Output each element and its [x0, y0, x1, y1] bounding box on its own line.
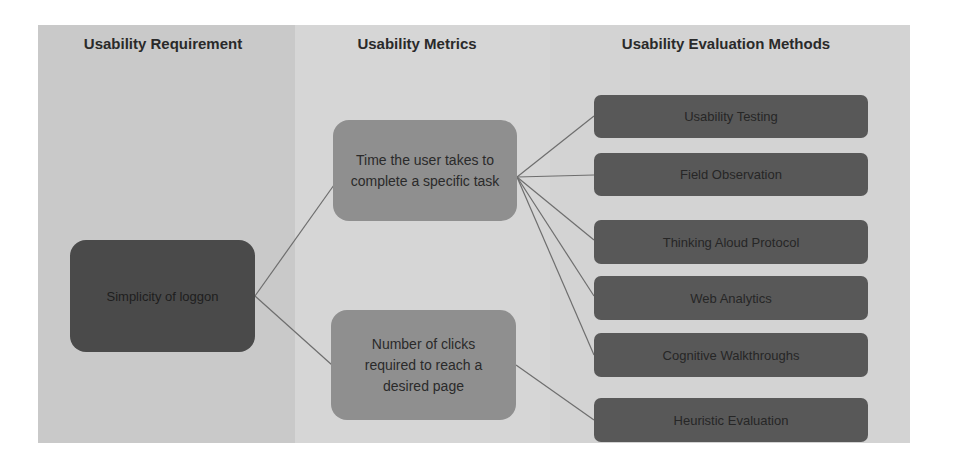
node-method-web-analytics: Web Analytics	[594, 276, 868, 320]
column-usability-requirement	[38, 25, 295, 443]
node-method-label: Field Observation	[680, 167, 782, 182]
node-metric-clicks-to-page: Number of clicks required to reach a des…	[331, 310, 516, 420]
node-method-thinking-aloud-protocol: Thinking Aloud Protocol	[594, 220, 868, 264]
node-metric-time-on-task: Time the user takes to complete a specif…	[333, 120, 517, 221]
node-method-label: Web Analytics	[690, 291, 771, 306]
node-method-field-observation: Field Observation	[594, 153, 868, 196]
node-method-usability-testing: Usability Testing	[594, 95, 868, 138]
header-usability-evaluation-methods: Usability Evaluation Methods	[622, 35, 830, 52]
node-method-label: Usability Testing	[684, 109, 778, 124]
node-method-heuristic-evaluation: Heuristic Evaluation	[594, 398, 868, 442]
node-method-cognitive-walkthroughs: Cognitive Walkthroughs	[594, 333, 868, 377]
node-method-label: Thinking Aloud Protocol	[663, 235, 800, 250]
node-metric-label: Time the user takes to complete a specif…	[347, 150, 503, 192]
header-usability-metrics: Usability Metrics	[357, 35, 476, 52]
node-metric-label: Number of clicks required to reach a des…	[353, 334, 494, 397]
node-requirement-label: Simplicity of loggon	[107, 289, 219, 304]
header-usability-requirement: Usability Requirement	[84, 35, 242, 52]
node-requirement: Simplicity of loggon	[70, 240, 255, 352]
node-method-label: Cognitive Walkthroughs	[663, 348, 800, 363]
node-method-label: Heuristic Evaluation	[674, 413, 789, 428]
